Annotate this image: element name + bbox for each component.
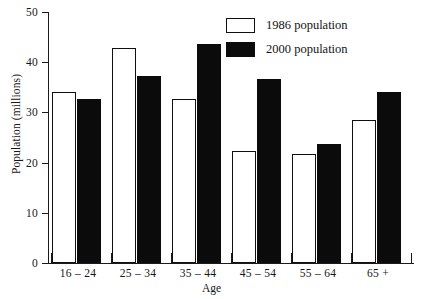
x-axis-tick-label: 65 + — [348, 267, 408, 279]
bar-1986 — [172, 99, 196, 263]
x-axis-tick-label: 35 – 44 — [168, 267, 228, 279]
y-axis-tick-label: 0 — [10, 257, 38, 269]
legend: 1986 population 2000 population — [226, 16, 406, 64]
x-axis-tick-label: 45 – 54 — [228, 267, 288, 279]
bar-2000 — [257, 79, 281, 263]
bar-2000 — [317, 144, 341, 263]
legend-item-2000: 2000 population — [226, 40, 406, 59]
bar-1986 — [52, 92, 76, 263]
bar-2000 — [377, 92, 401, 263]
bar-chart: 01020304050 Population (millions) 16 – 2… — [0, 0, 423, 299]
x-axis-group-tick — [411, 253, 412, 263]
bar-2000 — [137, 76, 161, 263]
bar-1986 — [112, 48, 136, 263]
legend-label-1986: 1986 population — [266, 19, 348, 32]
x-axis-title: Age — [0, 282, 423, 294]
legend-item-1986: 1986 population — [226, 16, 406, 35]
bar-1986 — [232, 151, 256, 263]
bar-2000 — [77, 99, 101, 263]
bar-group — [108, 12, 168, 263]
legend-swatch-2000-icon — [226, 42, 255, 57]
bar-1986 — [352, 120, 376, 263]
y-axis-tick — [42, 263, 49, 264]
legend-label-2000: 2000 population — [266, 43, 348, 56]
x-axis-tick-label: 16 – 24 — [48, 267, 108, 279]
bar-2000 — [197, 44, 221, 263]
legend-swatch-1986-icon — [226, 18, 255, 33]
x-axis-tick-label: 25 – 34 — [108, 267, 168, 279]
bar-group — [168, 12, 228, 263]
x-axis-line — [48, 263, 414, 264]
bar-group — [48, 12, 108, 263]
bar-1986 — [292, 154, 316, 263]
x-axis-tick-label: 55 – 64 — [288, 267, 348, 279]
y-axis-title: Population (millions) — [10, 14, 22, 234]
